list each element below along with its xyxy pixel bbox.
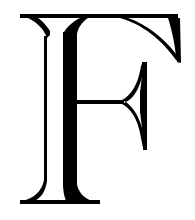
middle-spur-lower (122, 102, 143, 148)
stem-bottom-bracket (63, 184, 92, 201)
letter-f-icon (0, 0, 195, 220)
stem-thick (63, 32, 77, 186)
middle-spur-upper (122, 62, 143, 102)
top-bar (20, 14, 178, 18)
middle-arm (77, 100, 124, 104)
decorative-letter-f: F (0, 0, 195, 220)
stem-hairline (44, 36, 47, 182)
top-left-serif (28, 18, 50, 38)
bottom-bar (20, 200, 100, 204)
stem-top-bracket (63, 18, 88, 34)
bottom-left-serif (22, 180, 47, 203)
